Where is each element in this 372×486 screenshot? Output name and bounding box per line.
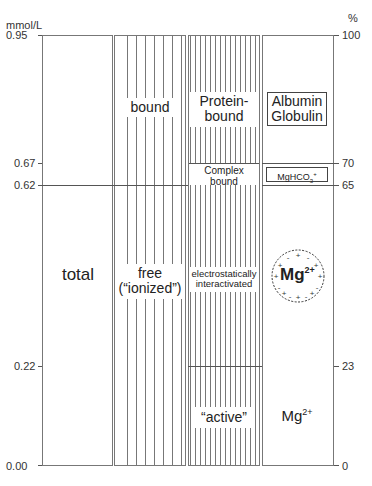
- albumin-globulin-box: Albumin Globulin: [267, 92, 327, 126]
- mghco3-sub: 3: [310, 178, 313, 184]
- mg-hydration-circle-icon: +-- ++ ++ -- ++ +-- Mg2+: [270, 248, 326, 304]
- tick: [334, 366, 339, 367]
- protein-bound-label: Protein- bound: [190, 92, 258, 127]
- albumin-label: Albumin: [268, 94, 326, 109]
- tick: [334, 163, 339, 164]
- right-tick-100: 100: [342, 29, 360, 41]
- mg-text: Mg: [280, 265, 305, 284]
- line-062: [42, 185, 188, 186]
- right-tick-65: 65: [342, 179, 354, 191]
- electro-line2: interactivated: [189, 279, 259, 289]
- complex-line2: bound: [189, 176, 259, 187]
- left-tick-095: 0.95: [6, 29, 27, 41]
- tick: [334, 185, 339, 186]
- protein-line2: bound: [190, 109, 258, 124]
- mg-circle-label: Mg2+: [280, 265, 320, 285]
- bound-label: bound: [124, 98, 176, 117]
- mghco3-label: MgHCO: [277, 172, 310, 182]
- mg-free-text: Mg: [281, 407, 302, 424]
- ionized-label: (“ionized”): [116, 281, 184, 296]
- svg-text:-: -: [307, 253, 310, 262]
- mg-free-charge: 2+: [302, 407, 312, 417]
- protein-line1: Protein-: [190, 94, 258, 109]
- mghco3-sup: +: [313, 171, 317, 177]
- mg-charge: 2+: [305, 265, 315, 275]
- svg-text:-: -: [305, 292, 308, 301]
- total-label: total: [50, 266, 106, 285]
- left-tick-062: 0.62: [14, 179, 35, 191]
- right-tick-0: 0: [342, 460, 348, 472]
- mghco3-box: MgHCO3+: [266, 167, 328, 182]
- line-067: [262, 163, 334, 164]
- active-label: “active”: [194, 407, 254, 428]
- left-tick-000: 0.00: [6, 460, 27, 472]
- svg-text:+: +: [310, 289, 315, 298]
- right-tick-23: 23: [342, 360, 354, 372]
- right-axis-unit: %: [348, 12, 358, 24]
- free-label: free: [116, 266, 184, 281]
- svg-text:-: -: [287, 253, 290, 262]
- svg-text:+: +: [296, 293, 301, 302]
- electrostatic-label: electrostatically interactivated: [189, 267, 259, 292]
- tick: [334, 465, 339, 466]
- left-tick-067: 0.67: [14, 157, 35, 169]
- column-total: [42, 35, 113, 466]
- line-062-right: [262, 185, 334, 186]
- svg-text:-: -: [289, 292, 292, 301]
- svg-text:+: +: [274, 272, 279, 281]
- mg-free-label: Mg2+: [272, 408, 322, 425]
- left-tick-022: 0.22: [14, 360, 35, 372]
- svg-text:+: +: [296, 251, 301, 260]
- complex-line1: Complex: [189, 165, 259, 176]
- right-tick-70: 70: [342, 157, 354, 169]
- globulin-label: Globulin: [268, 109, 326, 124]
- complex-bound-label: Complex bound: [189, 163, 259, 185]
- free-ionized-label: free (“ionized”): [116, 264, 184, 299]
- svg-text:+: +: [282, 289, 287, 298]
- tick: [334, 35, 339, 36]
